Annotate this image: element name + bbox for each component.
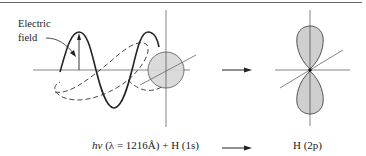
caption-arrowhead bbox=[244, 146, 252, 151]
product-caption: H (2p) bbox=[293, 139, 322, 151]
caption-arrow-layer bbox=[0, 0, 366, 156]
